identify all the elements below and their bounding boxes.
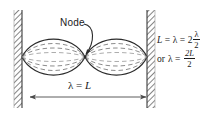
equation-1-lambda: λ — [173, 35, 178, 45]
equation-1-coefficient: 2 — [188, 35, 193, 45]
dimension-label-value: L — [85, 79, 91, 91]
equation-2-lhs: λ — [168, 54, 173, 64]
wave-loop-right — [85, 39, 147, 75]
dimension-label-equals: = — [76, 79, 82, 91]
equation-2: or λ = 2L 2 — [157, 49, 200, 68]
equation-1-fraction: λ 2 — [193, 30, 199, 49]
equation-2-fraction: 2L 2 — [184, 49, 195, 68]
dimension-label: λ = L — [68, 80, 91, 91]
equation-2-equals: = — [175, 54, 180, 64]
equation-1-denominator: 2 — [194, 40, 198, 49]
equation-1-equals-1: = — [165, 35, 170, 45]
equation-1-numerator: λ — [193, 30, 199, 40]
right-wall — [147, 10, 155, 108]
node-point — [84, 56, 87, 59]
dimension-label-symbol: λ — [68, 79, 73, 91]
equation-2-denominator: 2 — [187, 59, 191, 68]
left-wall — [14, 10, 22, 108]
standing-wave-diagram: Node λ = L L = λ = 2 λ 2 or λ = 2L 2 — [0, 0, 215, 117]
node-callout-arrow — [84, 24, 93, 54]
equation-1-lhs: L — [157, 35, 162, 45]
equation-2-prefix: or — [157, 54, 165, 64]
equation-block: L = λ = 2 λ 2 or λ = 2L 2 — [157, 30, 200, 68]
equation-1-equals-2: = — [180, 35, 185, 45]
equation-1: L = λ = 2 λ 2 — [157, 30, 200, 49]
wave-loop-left — [22, 39, 85, 75]
node-label: Node — [60, 18, 85, 28]
equation-2-numerator: 2L — [184, 49, 195, 59]
